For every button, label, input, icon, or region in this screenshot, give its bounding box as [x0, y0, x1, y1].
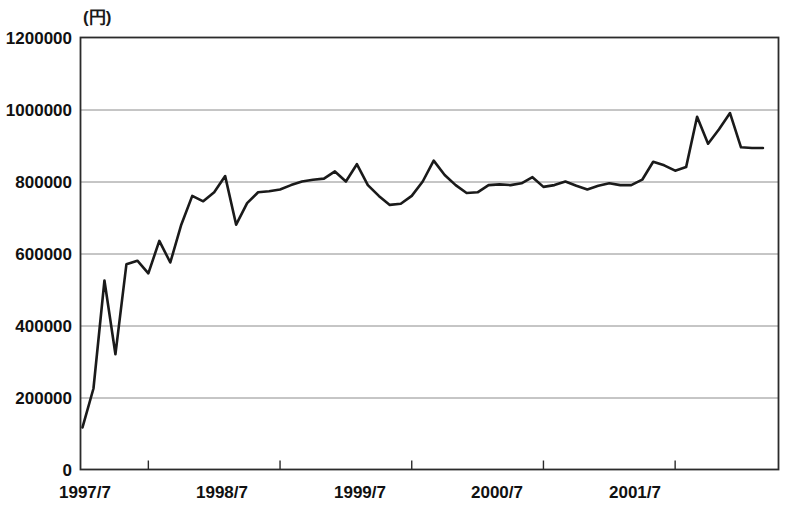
x-tick-label-1999: 1999/7 — [310, 484, 410, 501]
gridlines — [81, 110, 779, 398]
y-tick-label: 200000 — [15, 390, 72, 407]
line-chart: (円) 1200000 1000000 800000 600000 400000… — [0, 0, 787, 514]
x-tick-label-1997: 1997/7 — [35, 484, 135, 501]
data-series-line — [83, 113, 763, 427]
x-tick-label-2000: 2000/7 — [447, 484, 547, 501]
y-tick-label: 1000000 — [6, 102, 72, 119]
y-tick-label: 800000 — [15, 174, 72, 191]
plot-area — [0, 0, 787, 514]
y-tick-label: 0 — [63, 462, 72, 479]
x-axis-tick-marks — [148, 461, 675, 470]
y-tick-label: 400000 — [15, 318, 72, 335]
y-tick-label: 1200000 — [6, 30, 72, 47]
x-tick-label-1998: 1998/7 — [172, 484, 272, 501]
x-tick-label-2001: 2001/7 — [585, 484, 685, 501]
y-tick-label: 600000 — [15, 246, 72, 263]
y-axis-unit-label: (円) — [83, 3, 111, 28]
